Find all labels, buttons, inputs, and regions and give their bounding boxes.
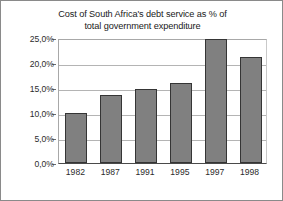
x-axis-tick-label: 1982 [66, 167, 85, 177]
bar [100, 95, 122, 164]
x-axis-tick-label: 1997 [205, 167, 224, 177]
bar [65, 113, 87, 163]
x-axis: 198219871991199519971998 [58, 167, 267, 181]
x-axis-tick-label: 1998 [240, 167, 259, 177]
chart-figure: Cost of South Africa's debt service as %… [0, 0, 283, 201]
x-axis-tick-label: 1995 [170, 167, 189, 177]
x-axis-tick-label: 1991 [136, 167, 155, 177]
bar-series [59, 40, 266, 163]
bar [240, 57, 262, 164]
y-axis-tick-label: 15,0% [10, 84, 54, 94]
y-axis: 0,0%5,0%10,0%15,0%20,0%25,0% [6, 39, 54, 164]
y-axis-tick-label: 0,0% [10, 159, 54, 169]
plot-area [58, 39, 267, 164]
x-axis-tick-label: 1987 [101, 167, 120, 177]
chart-title: Cost of South Africa's debt service as %… [1, 8, 283, 32]
bar [205, 39, 227, 163]
y-axis-tick-label: 25,0% [10, 34, 54, 44]
y-axis-tick-label: 20,0% [10, 59, 54, 69]
bar [170, 83, 192, 163]
bar [135, 89, 157, 163]
chart-title-line-1: Cost of South Africa's debt service as %… [1, 8, 283, 20]
y-axis-tick-label: 10,0% [10, 109, 54, 119]
y-axis-tick-label: 5,0% [10, 134, 54, 144]
chart-title-line-2: total government expenditure [1, 20, 283, 32]
